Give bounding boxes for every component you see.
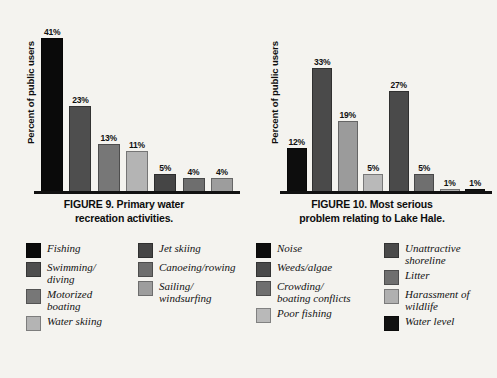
figure-10-legend-item: Water level bbox=[384, 315, 494, 331]
figure-10-bar-value-label: 5% bbox=[418, 164, 430, 173]
figure-10-bar-group: 27% bbox=[386, 10, 412, 193]
figure-9-legend-item: Canoeing/rowing bbox=[138, 261, 248, 277]
figure-10-bar bbox=[338, 121, 358, 193]
figure-9-bar bbox=[69, 106, 91, 193]
figure-10-legend-item: Poor fishing bbox=[256, 307, 384, 323]
figure-9-bars: 41%23%13%11%5%4%4% bbox=[38, 10, 236, 193]
legend-label-line-1: Jet skiing bbox=[159, 242, 201, 254]
figure-9-legend: FishingSwimming/divingMotorizedboatingWa… bbox=[26, 242, 248, 334]
legend-label-line-1: Motorized bbox=[47, 288, 92, 300]
figure-9-y-axis-label-text: Percent of public users bbox=[25, 41, 36, 144]
legend-label-line-1: Noise bbox=[277, 242, 302, 254]
figure-9: Percent of public users 41%23%13%11%5%4%… bbox=[8, 0, 240, 236]
figure-10-legend-item: Weeds/algae bbox=[256, 261, 384, 277]
figure-9-legend-label: Motorizedboating bbox=[47, 288, 92, 312]
figure-9-legend-label: Water skiing bbox=[47, 315, 102, 327]
figure-9-bar-value-label: 4% bbox=[188, 168, 200, 177]
legend-swatch-icon bbox=[384, 270, 399, 285]
figure-9-legend-item: Motorizedboating bbox=[26, 288, 138, 312]
figure-9-legend-column-2: Jet skiingCanoeing/rowingSailing/windsur… bbox=[138, 242, 248, 334]
figure-10-bar-group: 33% bbox=[310, 10, 336, 193]
figure-9-caption-line-2: recreation activities. bbox=[8, 212, 240, 226]
figure-9-legend-item: Jet skiing bbox=[138, 242, 248, 258]
figure-9-legend-item: Fishing bbox=[26, 242, 138, 258]
figure-10-legend-item: Noise bbox=[256, 242, 384, 258]
figure-10-bar-value-label: 27% bbox=[391, 81, 407, 90]
legend-label-line-1: Sailing/ bbox=[159, 280, 193, 292]
figure-10-legend-column-1: NoiseWeeds/algaeCrowding/boating conflic… bbox=[256, 242, 384, 334]
legend-label-line-1: Swimming/ bbox=[47, 261, 96, 273]
figure-10-legend-label: Water level bbox=[405, 315, 454, 327]
figure-9-bar-group: 4% bbox=[208, 10, 236, 193]
figure-9-bar-group: 11% bbox=[123, 10, 151, 193]
legend-swatch-icon bbox=[384, 243, 399, 258]
figure-10-bar bbox=[312, 68, 332, 193]
figure-9-legend-column-1: FishingSwimming/divingMotorizedboatingWa… bbox=[26, 242, 138, 334]
figure-9-bar-value-label: 41% bbox=[44, 28, 60, 37]
figure-9-legend-label: Sailing/windsurfing bbox=[159, 280, 212, 304]
legend-label-line-1: Water level bbox=[405, 315, 454, 327]
figure-10-bar-group: 5% bbox=[361, 10, 387, 193]
figure-10-bar-group: 12% bbox=[284, 10, 310, 193]
legend-label-line-2: wildlife bbox=[405, 300, 469, 312]
figure-9-axis-line bbox=[34, 191, 240, 194]
legend-swatch-icon bbox=[138, 281, 153, 296]
figure-10-bar-value-label: 1% bbox=[444, 179, 456, 188]
figure-10-bar-value-label: 12% bbox=[289, 138, 305, 147]
legend-label-line-2: windsurfing bbox=[159, 292, 212, 304]
legend-swatch-icon bbox=[26, 289, 41, 304]
figure-10: Percent of public users 12%33%19%5%27%5%… bbox=[252, 0, 492, 236]
figure-9-legend-item: Swimming/diving bbox=[26, 261, 138, 285]
figure-9-caption-line-1: FIGURE 9. Primary water bbox=[64, 198, 184, 210]
legend-swatch-icon bbox=[384, 316, 399, 331]
figure-9-legend-label: Canoeing/rowing bbox=[159, 261, 236, 273]
figure-10-bar-value-label: 1% bbox=[469, 179, 481, 188]
figure-9-legend-item: Sailing/windsurfing bbox=[138, 280, 248, 304]
figure-9-plot: Percent of public users 41%23%13%11%5%4%… bbox=[8, 0, 240, 196]
legend-swatch-icon bbox=[26, 243, 41, 258]
figure-9-bar bbox=[126, 151, 148, 193]
figure-9-bar-group: 41% bbox=[38, 10, 66, 193]
figure-9-bar-value-label: 13% bbox=[100, 134, 116, 143]
figure-9-legend-label: Jet skiing bbox=[159, 242, 201, 254]
legend-label-line-1: Litter bbox=[405, 269, 429, 281]
figure-page: Percent of public users 41%23%13%11%5%4%… bbox=[0, 0, 497, 378]
legend-swatch-icon bbox=[256, 281, 271, 296]
figure-9-bar-value-label: 23% bbox=[72, 96, 88, 105]
legend-label-line-1: Poor fishing bbox=[277, 307, 332, 319]
legend-label-line-2: boating bbox=[47, 300, 92, 312]
figure-9-bar bbox=[98, 144, 120, 193]
figure-10-legend: NoiseWeeds/algaeCrowding/boating conflic… bbox=[256, 242, 494, 334]
legend-swatch-icon bbox=[256, 262, 271, 277]
figure-10-legend-label: Poor fishing bbox=[277, 307, 332, 319]
legend-swatch-icon bbox=[384, 289, 399, 304]
legend-label-line-1: Harassment of bbox=[405, 288, 469, 300]
figure-9-bar-group: 23% bbox=[66, 10, 94, 193]
figure-10-legend-label: Unattractiveshoreline bbox=[405, 242, 461, 266]
figure-9-bar-group: 4% bbox=[179, 10, 207, 193]
figure-9-bar-value-label: 5% bbox=[159, 164, 171, 173]
figure-9-legend-label: Fishing bbox=[47, 242, 81, 254]
figure-10-bars: 12%33%19%5%27%5%1%1% bbox=[284, 10, 488, 193]
legend-swatch-icon bbox=[256, 308, 271, 323]
figure-10-legend-label: Litter bbox=[405, 269, 429, 281]
figure-10-caption: FIGURE 10. Most serious problem relating… bbox=[252, 198, 492, 225]
figure-10-legend-label: Harassment ofwildlife bbox=[405, 288, 469, 312]
figure-10-bar-value-label: 33% bbox=[314, 58, 330, 67]
legend-swatch-icon bbox=[256, 243, 271, 258]
figure-10-bar bbox=[389, 91, 409, 193]
legend-label-line-1: Weeds/algae bbox=[277, 261, 332, 273]
legend-label-line-2: diving bbox=[47, 273, 96, 285]
figure-10-caption-line-1: FIGURE 10. Most serious bbox=[311, 198, 432, 210]
figure-10-legend-item: Unattractiveshoreline bbox=[384, 242, 494, 266]
figure-10-legend-label: Weeds/algae bbox=[277, 261, 332, 273]
legend-swatch-icon bbox=[26, 262, 41, 277]
figure-10-legend-item: Harassment ofwildlife bbox=[384, 288, 494, 312]
figure-10-legend-column-2: UnattractiveshorelineLitterHarassment of… bbox=[384, 242, 494, 334]
figure-10-legend-item: Crowding/boating conflicts bbox=[256, 280, 384, 304]
figure-10-bar-group: 1% bbox=[463, 10, 489, 193]
legend-label-line-2: shoreline bbox=[405, 254, 461, 266]
legend-label-line-1: Water skiing bbox=[47, 315, 102, 327]
legend-label-line-1: Fishing bbox=[47, 242, 81, 254]
figure-10-bar-group: 1% bbox=[437, 10, 463, 193]
